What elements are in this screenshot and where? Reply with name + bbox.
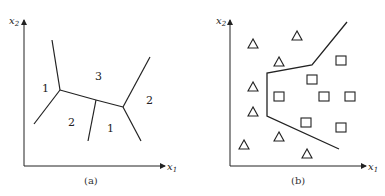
region-label: 3: [95, 70, 102, 83]
squares: [274, 56, 355, 132]
triangle-marker: [274, 57, 284, 66]
y-axis-label: x2: [9, 15, 20, 28]
triangle-marker: [248, 107, 258, 116]
y-axis-label: x2: [216, 15, 227, 28]
region-label: 2: [146, 94, 153, 107]
decision-boundary: [267, 22, 347, 149]
caption-b: (b): [291, 175, 305, 186]
triangles: [239, 31, 312, 158]
square-marker: [336, 56, 346, 65]
decision-boundaries: [34, 40, 150, 141]
triangle-marker: [292, 31, 302, 40]
square-marker: [345, 92, 355, 101]
region-label: 2: [68, 116, 75, 129]
figure: x2 x1 1 3 2 1 2 (a) x2 x1: [0, 0, 385, 196]
caption-a: (a): [84, 175, 98, 186]
cropped-caption-bottom: [130, 191, 260, 196]
triangle-marker: [302, 149, 312, 158]
square-marker: [307, 75, 317, 84]
square-marker: [301, 118, 311, 127]
triangle-marker: [248, 39, 258, 48]
panel-a: x2 x1 1 3 2 1 2 (a): [9, 15, 177, 186]
triangle-marker: [274, 132, 284, 141]
panel-b: x2 x1 (b): [216, 15, 378, 186]
region-label: 1: [42, 82, 49, 95]
square-marker: [274, 92, 284, 101]
region-label: 1: [107, 122, 114, 135]
square-marker: [336, 123, 346, 132]
square-marker: [319, 92, 329, 101]
x-axis-label: x1: [167, 161, 177, 174]
triangle-marker: [239, 140, 249, 149]
x-axis-label: x1: [368, 161, 378, 174]
triangle-marker: [248, 82, 258, 91]
